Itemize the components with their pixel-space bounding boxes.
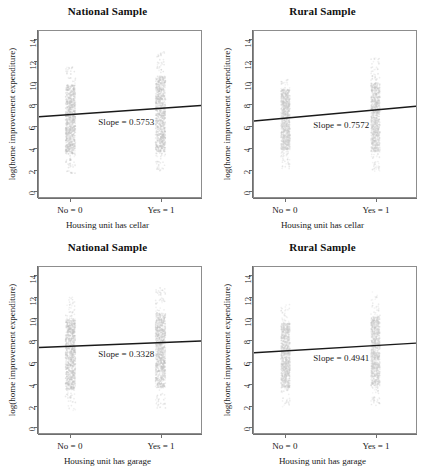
x-axis-tick-label: Yes = 1 (362, 441, 389, 451)
x-axis-tick-label: No = 0 (57, 441, 82, 451)
y-axis-tick-label: 6 (27, 126, 37, 130)
x-axis: No = 0Yes = 1 (38, 198, 202, 206)
y-axis-tick-label: 10 (27, 318, 37, 327)
y-axis-tick-label: 2 (27, 406, 37, 410)
x-axis-tick-label: No = 0 (272, 441, 297, 451)
y-axis: 02468101214 (245, 266, 253, 434)
plot-area: Slope = 0.7572 (253, 30, 417, 198)
x-axis-title: Housing unit has cellar (215, 220, 430, 230)
slope-annotation: Slope = 0.3328 (98, 349, 154, 359)
slope-annotation: Slope = 0.4941 (313, 353, 369, 363)
fit-line (39, 106, 201, 117)
y-axis-tick-label: 0 (27, 427, 37, 431)
panel-national-garage: National Sample log(home improvement exp… (0, 236, 215, 472)
x-axis-tick-label: Yes = 1 (147, 441, 174, 451)
y-axis: 02468101214 (30, 30, 38, 198)
y-axis-title: log(home improvement expenditure) (221, 266, 233, 434)
x-axis-tick (70, 434, 71, 438)
x-axis-tick (161, 434, 162, 438)
x-axis-line (253, 434, 417, 435)
y-axis: 02468101214 (245, 30, 253, 198)
y-axis-tick-label: 12 (242, 297, 252, 306)
y-axis-tick-label: 8 (27, 104, 37, 108)
y-axis-tick-label: 14 (27, 39, 37, 48)
y-axis-title-text: log(home improvement expenditure) (222, 284, 232, 416)
panel-title: National Sample (0, 5, 215, 17)
x-axis-tick (285, 198, 286, 202)
y-axis-tick-label: 2 (242, 170, 252, 174)
y-axis-title-text: log(home improvement expenditure) (222, 48, 232, 180)
x-axis: No = 0Yes = 1 (253, 198, 417, 206)
x-axis-tick (285, 434, 286, 438)
panel-rural-garage: Rural Sample log(home improvement expend… (215, 236, 430, 472)
y-axis-tick-label: 12 (242, 61, 252, 70)
y-axis-title: log(home improvement expenditure) (6, 30, 18, 198)
panel-title: National Sample (0, 241, 215, 253)
y-axis-tick-label: 10 (242, 318, 252, 327)
y-axis-tick-label: 6 (27, 362, 37, 366)
panel-national-cellar: National Sample log(home improvement exp… (0, 0, 215, 236)
y-axis-tick-label: 12 (27, 297, 37, 306)
y-axis-tick-label: 6 (242, 362, 252, 366)
x-axis-title: Housing unit has garage (215, 456, 430, 466)
x-axis-title: Housing unit has cellar (0, 220, 215, 230)
fit-line (39, 341, 201, 347)
panel-title: Rural Sample (215, 5, 430, 17)
y-axis-tick-label: 8 (242, 340, 252, 344)
x-axis-tick-label: No = 0 (57, 205, 82, 215)
plot-area: Slope = 0.4941 (253, 266, 417, 434)
y-axis-title-text: log(home improvement expenditure) (7, 284, 17, 416)
y-axis-title: log(home improvement expenditure) (6, 266, 18, 434)
panel-title: Rural Sample (215, 241, 430, 253)
x-axis-tick (376, 198, 377, 202)
x-axis: No = 0Yes = 1 (253, 434, 417, 442)
x-axis-tick-label: No = 0 (272, 205, 297, 215)
regression-line (254, 31, 416, 197)
y-axis-tick-label: 0 (242, 427, 252, 431)
y-axis-tick-label: 14 (242, 275, 252, 284)
y-axis-tick-label: 10 (27, 82, 37, 91)
y-axis-tick-label: 2 (242, 406, 252, 410)
y-axis-tick-label: 4 (27, 384, 37, 388)
y-axis: 02468101214 (30, 266, 38, 434)
y-axis-tick-label: 2 (27, 170, 37, 174)
y-axis-tick-label: 10 (242, 82, 252, 91)
panel-rural-cellar: Rural Sample log(home improvement expend… (215, 0, 430, 236)
y-axis-tick-label: 0 (242, 191, 252, 195)
x-axis-tick (70, 198, 71, 202)
slope-annotation: Slope = 0.5753 (98, 117, 154, 127)
y-axis-tick-label: 4 (242, 148, 252, 152)
y-axis-tick-label: 8 (27, 340, 37, 344)
x-axis-tick (161, 198, 162, 202)
y-axis-title: log(home improvement expenditure) (221, 30, 233, 198)
x-axis-title: Housing unit has garage (0, 456, 215, 466)
figure-grid: National Sample log(home improvement exp… (0, 0, 430, 472)
plot-area: Slope = 0.3328 (38, 266, 202, 434)
y-axis-tick-label: 4 (27, 148, 37, 152)
y-axis-tick-label: 0 (27, 191, 37, 195)
x-axis-tick-label: Yes = 1 (147, 205, 174, 215)
x-axis-line (38, 198, 202, 199)
x-axis-line (253, 198, 417, 199)
y-axis-tick-label: 6 (242, 126, 252, 130)
x-axis-line (38, 434, 202, 435)
y-axis-tick-label: 8 (242, 104, 252, 108)
slope-annotation: Slope = 0.7572 (313, 120, 369, 130)
y-axis-tick-label: 12 (27, 61, 37, 70)
x-axis-tick (376, 434, 377, 438)
x-axis-tick-label: Yes = 1 (362, 205, 389, 215)
y-axis-tick-label: 14 (242, 39, 252, 48)
regression-line (39, 31, 201, 197)
plot-area: Slope = 0.5753 (38, 30, 202, 198)
fit-line (254, 343, 416, 353)
regression-line (254, 267, 416, 433)
y-axis-title-text: log(home improvement expenditure) (7, 48, 17, 180)
y-axis-tick-label: 14 (27, 275, 37, 284)
y-axis-tick-label: 4 (242, 384, 252, 388)
x-axis: No = 0Yes = 1 (38, 434, 202, 442)
